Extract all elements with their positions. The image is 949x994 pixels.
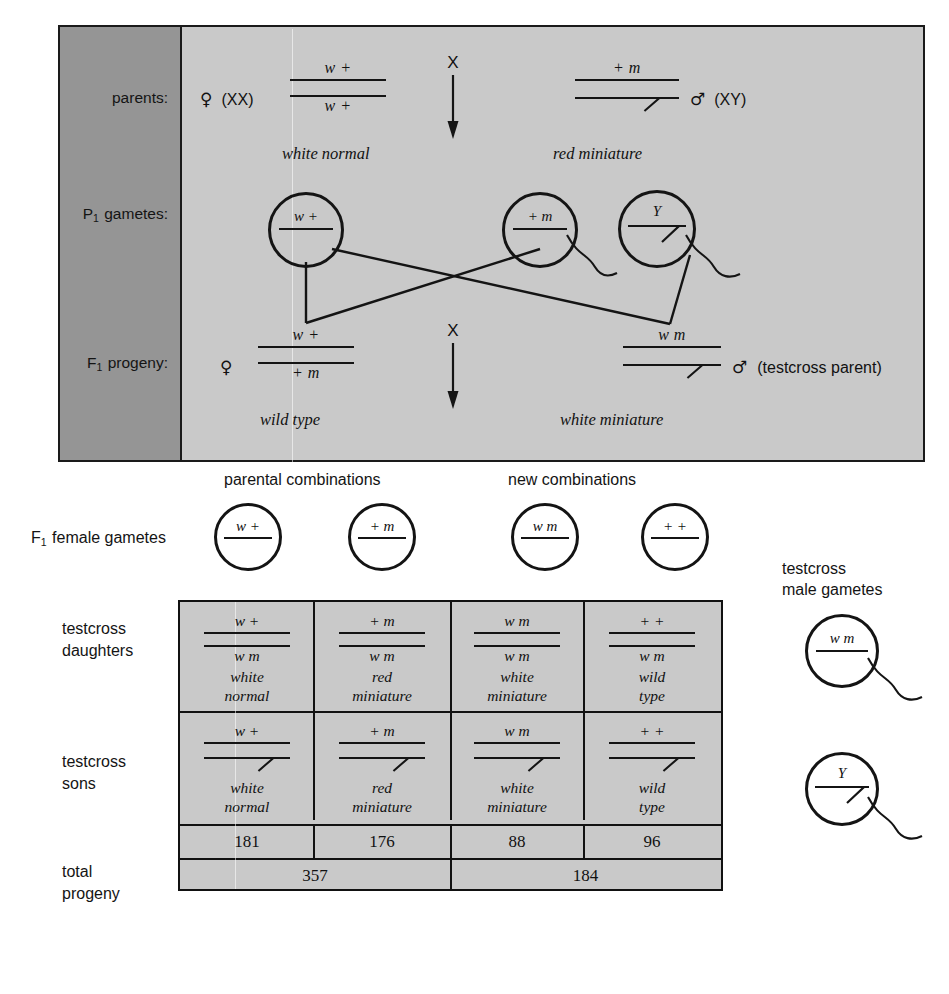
f1-tail: progeny: bbox=[108, 354, 168, 371]
sons-3-top: + + bbox=[585, 722, 719, 740]
cross-symbol-top: X bbox=[443, 53, 463, 147]
group-label-parental: parental combinations bbox=[224, 471, 381, 489]
f1-male-allele-top: w m bbox=[620, 327, 724, 344]
y-chromosome-icon bbox=[575, 95, 679, 111]
female-parent-phenotype: white normal bbox=[282, 144, 370, 164]
sons-0-phen2: normal bbox=[182, 798, 312, 817]
sons-1-phen2: miniature bbox=[316, 798, 448, 817]
table-row-label-sons-1: testcross bbox=[62, 753, 126, 771]
group-label-new: new combinations bbox=[508, 471, 636, 489]
table-cell-daughters-1: + m w m red miniature bbox=[316, 612, 448, 706]
sperm-tail-icon-4 bbox=[866, 789, 936, 851]
male-parent-symbol: ♂ (XY) bbox=[690, 89, 746, 109]
table-cell-daughters-0: w + w m white normal bbox=[182, 612, 312, 706]
total-count-0: 181 bbox=[182, 832, 312, 852]
p1-subscript: 1 bbox=[93, 212, 100, 224]
testcross-male-gamete-label-0: w m bbox=[808, 630, 876, 647]
down-arrow-icon bbox=[443, 73, 463, 143]
female-karyotype: (XX) bbox=[221, 91, 253, 108]
male-parent-genotype: + m bbox=[572, 60, 682, 111]
daughters-2-phen2: miniature bbox=[452, 687, 582, 706]
testcross-results-table: w + w m white normal + m w m red miniatu… bbox=[178, 600, 723, 891]
f1-prefix: F bbox=[87, 354, 96, 371]
table-cell-daughters-3: + + w m wild type bbox=[585, 612, 719, 706]
total-count-3: 96 bbox=[585, 832, 719, 852]
p1-gamete-label-0: w + bbox=[271, 208, 341, 225]
y-hook-icon-p1 bbox=[657, 225, 683, 245]
f1-gamete-3: + + bbox=[641, 503, 709, 571]
daughters-2-bottom: w m bbox=[452, 647, 582, 665]
daughters-1-phen1: red bbox=[316, 668, 448, 687]
sons-0-phen1: white bbox=[182, 779, 312, 798]
cross-symbol-bottom-text: X bbox=[443, 321, 463, 341]
female-parent-symbol: ♀ (XX) bbox=[200, 89, 253, 109]
daughters-2-phen1: white bbox=[452, 668, 582, 687]
daughters-1-bottom: w m bbox=[316, 647, 448, 665]
daughters-2-top: w m bbox=[452, 612, 582, 630]
cross-diagram-panel: parents: P1 gametes: F1 progeny: ♀ (XX) … bbox=[58, 25, 925, 462]
sons-1-top: + m bbox=[316, 722, 448, 740]
table-cell-sons-1: + m red miniature bbox=[316, 722, 448, 817]
f1-gamete-1: + m bbox=[348, 503, 416, 571]
testcross-male-gamete-label-1: Y bbox=[808, 765, 876, 782]
f1g-subscript: 1 bbox=[41, 536, 48, 548]
sons-2-top: w m bbox=[452, 722, 582, 740]
y-chromosome-icon-sons-1 bbox=[339, 755, 425, 771]
f1-male-sex-icon: ♂ bbox=[732, 357, 747, 377]
f1-gamete-label-2: w m bbox=[514, 518, 576, 535]
sons-1-phen1: red bbox=[316, 779, 448, 798]
y-hook-icon-testcross bbox=[842, 786, 868, 806]
testcross-male-gametes-title-1: testcross bbox=[782, 560, 846, 578]
row-label-p1-gametes: P1 gametes: bbox=[83, 205, 168, 224]
cross-symbol-bottom: X bbox=[443, 321, 463, 417]
daughters-3-phen1: wild bbox=[585, 668, 719, 687]
daughters-0-top: w + bbox=[182, 612, 312, 630]
p1-gamete-label-2: Y bbox=[621, 203, 693, 220]
y-chromosome-icon-sons-2 bbox=[474, 755, 560, 771]
female-allele-bottom: w + bbox=[288, 98, 388, 115]
panel-row-label-column: parents: P1 gametes: F1 progeny: bbox=[60, 27, 182, 460]
table-cell-sons-2: w m white miniature bbox=[452, 722, 582, 817]
daughters-3-bottom: w m bbox=[585, 647, 719, 665]
f1-female-genotype: w + + m bbox=[256, 327, 356, 382]
male-sex-icon: ♂ bbox=[690, 89, 705, 109]
f1g-prefix: F bbox=[31, 529, 41, 546]
row-label-f1-progeny: F1 progeny: bbox=[87, 354, 168, 373]
subtotal-new: 184 bbox=[452, 866, 719, 886]
daughters-0-bottom: w m bbox=[182, 647, 312, 665]
daughters-1-top: + m bbox=[316, 612, 448, 630]
row-label-parents: parents: bbox=[112, 89, 168, 107]
p1-gamete-egg-w-plus: w + bbox=[268, 192, 344, 268]
p1-prefix: P bbox=[83, 205, 93, 222]
f1-male-symbol: ♂ (testcross parent) bbox=[732, 357, 882, 377]
table-row-label-sons-2: sons bbox=[62, 775, 96, 793]
f1-female-allele-bottom: + m bbox=[256, 365, 356, 382]
sperm-tail-icon-3 bbox=[866, 650, 936, 710]
y-chromosome-icon-f1 bbox=[623, 362, 721, 378]
y-chromosome-icon-sons-0 bbox=[204, 755, 290, 771]
down-arrow-icon-2 bbox=[443, 341, 463, 413]
sons-2-phen1: white bbox=[452, 779, 582, 798]
daughters-0-phen1: white bbox=[182, 668, 312, 687]
f1-gamete-label-0: w + bbox=[217, 518, 279, 535]
f1-gamete-2: w m bbox=[511, 503, 579, 571]
table-row-label-daughters-1: testcross bbox=[62, 620, 126, 638]
male-karyotype: (XY) bbox=[714, 91, 746, 108]
testcross-male-gametes-title-2: male gametes bbox=[782, 581, 883, 599]
f1-female-gametes-label: F1 female gametes bbox=[31, 529, 166, 548]
table-row-label-total-1: total bbox=[62, 863, 92, 881]
f1-female-symbol: ♀ bbox=[220, 357, 232, 377]
male-allele-top: + m bbox=[572, 60, 682, 77]
f1-female-sex-icon: ♀ bbox=[220, 357, 232, 377]
row-label-parents-text: parents: bbox=[112, 89, 168, 106]
f1-gamete-0: w + bbox=[214, 503, 282, 571]
total-count-1: 176 bbox=[316, 832, 448, 852]
f1-male-note: (testcross parent) bbox=[757, 359, 881, 376]
daughters-0-phen2: normal bbox=[182, 687, 312, 706]
y-chromosome-icon-sons-3 bbox=[609, 755, 695, 771]
f1-gamete-label-1: + m bbox=[351, 518, 413, 535]
table-cell-sons-3: + + wild type bbox=[585, 722, 719, 817]
f1g-tail: female gametes bbox=[52, 529, 166, 546]
sons-3-phen1: wild bbox=[585, 779, 719, 798]
f1-female-allele-top: w + bbox=[256, 327, 356, 344]
